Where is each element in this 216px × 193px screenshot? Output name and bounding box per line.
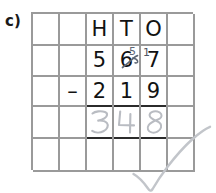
grid-cell-subtrahend-tens: 1 [114,77,141,107]
grid-cell-r5c2 [60,139,87,172]
grid-cell-answer-tens [114,107,141,139]
answer-tens-digit [114,108,140,136]
working-rule-top-tens [114,105,139,107]
grid-cell-r4c2 [60,107,87,139]
working-rule-top-hundreds [87,105,112,107]
borrow-annotation-tens: 5 [114,46,139,75]
subtrahend-ones-digit: 9 [147,81,160,102]
grid-cell-minuend-tens: 6 5 [114,46,141,77]
grid-cell-r3c1 [33,77,60,107]
grid-cell-r5c6 [168,139,195,172]
grid-cell-answer-hundreds [87,107,114,139]
grid-cell-r2c6 [168,46,195,77]
strike-through-mark [120,54,140,70]
grid-cell-r4c1 [33,107,60,139]
grid-cell-hundreds-header: H [87,14,114,46]
grid-cell-r2c1 [33,46,60,77]
borrow-carry-ones: 1 [143,47,150,58]
answer-hundreds-digit [87,108,113,136]
grid-cell-r4c6 [168,107,195,139]
header-ones: O [145,19,162,40]
grid-cell-r3c6 [168,77,195,107]
calculation-grid: H T O 5 6 5 7 1 – 2 [31,12,193,170]
grid-cell-r5c1 [33,139,60,172]
grid-cell-operator: – [60,77,87,107]
grid-cell-r2c2 [60,46,87,77]
grid-cell-subtrahend-ones: 9 [141,77,168,107]
grid-cell-r5c5 [141,139,168,172]
grid-cell-subtrahend-hundreds: 2 [87,77,114,107]
header-hundreds: H [92,19,108,40]
answer-ones-digit [141,108,167,136]
grid-cell-tens-header: T [114,14,141,46]
subtrahend-tens-digit: 1 [120,81,133,102]
grid-cell-r1c2 [60,14,87,46]
grid-cell-r1c1 [33,14,60,46]
operator-minus: – [67,81,78,102]
grid-cell-ones-header: O [141,14,168,46]
exercise-label: c) [5,14,21,29]
minuend-hundreds-digit: 5 [93,50,106,71]
grid-cell-r1c6 [168,14,195,46]
grid-cell-r5c4 [114,139,141,172]
grid-cell-minuend-hundreds: 5 [87,46,114,77]
grid-cell-r5c3 [87,139,114,172]
header-tens: T [120,19,133,40]
working-rule-top-ones [141,105,166,107]
grid-cell-answer-ones [141,107,168,139]
subtrahend-hundreds-digit: 2 [93,81,106,102]
grid-cell-minuend-ones: 7 1 [141,46,168,77]
